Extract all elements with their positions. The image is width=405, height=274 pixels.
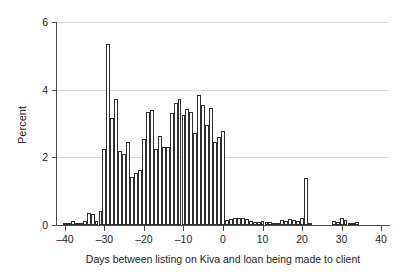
histogram-bar: [304, 178, 308, 225]
x-axis-tick: [302, 226, 303, 231]
y-axis-tick: [52, 22, 57, 23]
x-axis-tick-label: 0: [203, 233, 243, 245]
y-axis-tick: [52, 90, 57, 91]
x-axis-tick-label: –20: [124, 233, 164, 245]
y-axis-tick-label: 2: [28, 152, 48, 162]
histogram-figure: Percent Days between listing on Kiva and…: [0, 0, 405, 274]
x-axis-tick: [65, 226, 66, 231]
y-axis-tick: [52, 225, 57, 226]
x-axis-tick-label: –40: [45, 233, 85, 245]
x-axis-label: Days between listing on Kiva and loan be…: [57, 252, 389, 266]
plot-area: [57, 22, 389, 225]
x-axis-tick-label: 20: [282, 233, 322, 245]
x-axis-tick-label: –10: [163, 233, 203, 245]
gridline: [57, 22, 389, 23]
x-axis-tick: [263, 226, 264, 231]
x-axis-tick: [223, 226, 224, 231]
x-axis-tick-label: 10: [243, 233, 283, 245]
y-axis-line: [56, 22, 57, 226]
y-axis-tick-label: 6: [28, 17, 48, 27]
x-axis-tick-label: 30: [322, 233, 362, 245]
histogram-bar: [221, 131, 225, 225]
y-axis-tick-label: 0: [28, 220, 48, 230]
x-axis-tick: [144, 226, 145, 231]
x-axis-tick: [342, 226, 343, 231]
y-axis-tick: [52, 157, 57, 158]
y-axis-label: Percent: [14, 20, 30, 230]
x-axis-tick-label: –30: [84, 233, 124, 245]
y-axis-tick-label: 4: [28, 85, 48, 95]
x-axis-tick-label: 40: [361, 233, 401, 245]
x-axis-tick: [381, 226, 382, 231]
x-axis-tick: [104, 226, 105, 231]
x-axis-tick: [183, 226, 184, 231]
